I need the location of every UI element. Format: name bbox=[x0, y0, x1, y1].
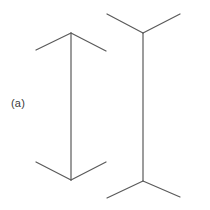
right-figure-bottom-right-fin bbox=[143, 181, 180, 197]
right-figure-top-right-fin bbox=[143, 14, 180, 33]
left-figure-bottom-left-fin bbox=[36, 162, 71, 180]
muller-lyer-illusion-diagram bbox=[0, 0, 210, 210]
panel-label-a: (a) bbox=[11, 97, 25, 110]
figure-panel: (a) bbox=[0, 0, 210, 210]
right-figure-bottom-left-fin bbox=[107, 181, 143, 198]
left-figure-bottom-right-fin bbox=[71, 162, 106, 180]
left-figure-top-left-fin bbox=[36, 33, 71, 50]
right-figure-top-left-fin bbox=[107, 14, 143, 33]
left-figure-top-right-fin bbox=[71, 33, 106, 51]
